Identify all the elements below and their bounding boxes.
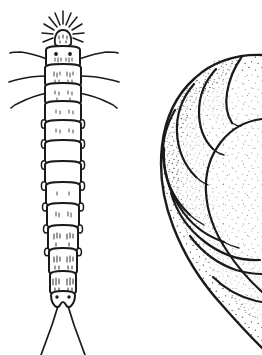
illustration-plate bbox=[0, 0, 262, 355]
anal-spot bbox=[55, 295, 58, 298]
eye-spot bbox=[68, 52, 72, 56]
line-drawing-canvas bbox=[0, 0, 262, 355]
head-capsule bbox=[55, 30, 71, 47]
eye-spot bbox=[54, 52, 58, 56]
anal-spot bbox=[67, 295, 70, 298]
